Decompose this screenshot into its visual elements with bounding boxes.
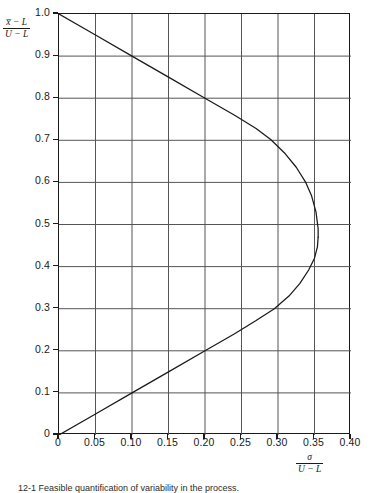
x-tick-label: 0.10 (113, 437, 149, 448)
y-tick-label: 0.3 (16, 302, 50, 312)
x-tick-label: 0 (40, 437, 76, 448)
x-tick-label: 0.20 (186, 437, 222, 448)
y-tick-mark (53, 307, 58, 308)
x-tick-label: 0.30 (259, 437, 295, 448)
y-tick-label: 0.9 (16, 49, 50, 59)
y-tick-label: 0.4 (16, 260, 50, 270)
y-tick-label: 0.1 (16, 386, 50, 396)
x-tick-label: 0.15 (150, 437, 186, 448)
y-tick-label: 0.2 (16, 344, 50, 354)
x-tick-label: 0.40 (332, 437, 368, 448)
y-tick-label: 0.7 (16, 133, 50, 143)
y-tick-mark (53, 97, 58, 98)
y-tick-label: 0.6 (16, 175, 50, 185)
y-tick-mark (53, 12, 58, 13)
figure-caption: 12-1 Feasible quantification of variabil… (18, 483, 378, 493)
y-tick-label: 0.8 (16, 91, 50, 101)
y-tick-mark (53, 391, 58, 392)
y-tick-mark (53, 265, 58, 266)
axis-ticks: 1.00.90.80.70.60.50.40.30.20.1000.050.10… (0, 0, 390, 493)
x-tick-label: 0.05 (77, 437, 113, 448)
y-tick-label: 1.0 (16, 7, 50, 17)
y-tick-mark (53, 55, 58, 56)
y-tick-mark (53, 181, 58, 182)
y-tick-label: 0.5 (16, 218, 50, 228)
x-tick-label: 0.35 (296, 437, 332, 448)
figure-container: x̅ − L U − L σ U − L 1.00.90.80.70.60.50… (0, 0, 390, 493)
x-tick-label: 0.25 (223, 437, 259, 448)
y-tick-mark (53, 349, 58, 350)
y-tick-mark (53, 223, 58, 224)
y-tick-mark (53, 139, 58, 140)
